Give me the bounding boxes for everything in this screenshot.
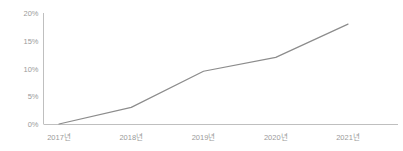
x-tick-label: 2018년: [119, 131, 143, 142]
y-tick-label: 0%: [0, 120, 39, 129]
y-tick-label: 10%: [0, 64, 39, 73]
series-line-0: [59, 24, 348, 124]
y-tick-label: 20%: [0, 9, 39, 18]
line-chart: 0%5%10%15%20% 2017년2018년2019년2020년2021년: [0, 0, 403, 151]
series-group: [59, 24, 348, 124]
x-tick-label: 2021년: [336, 131, 360, 142]
x-tick-label: 2017년: [47, 131, 71, 142]
y-tick-label: 15%: [0, 36, 39, 45]
y-tick-label: 5%: [0, 92, 39, 101]
chart-plot-area: [0, 0, 403, 151]
axes-group: [44, 13, 399, 125]
x-tick-label: 2019년: [192, 131, 216, 142]
x-tick-label: 2020년: [264, 131, 288, 142]
